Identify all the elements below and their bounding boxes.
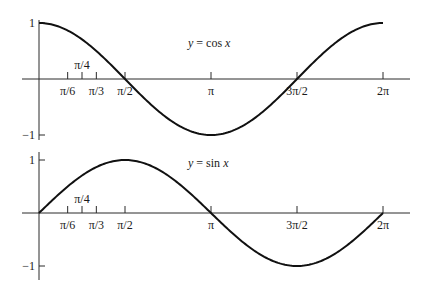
x-tick-label: π/3 xyxy=(89,218,104,232)
x-tick-label: π/4 xyxy=(74,192,89,206)
sin-panel: 1−1π/6π/4π/3π/2π3π/22πy = sin x xyxy=(22,152,410,280)
equation-label: y = sin x xyxy=(187,156,229,170)
x-tick-label: π/4 xyxy=(74,58,89,72)
x-tick-label: π xyxy=(208,218,214,232)
x-tick-label: 3π/2 xyxy=(286,218,307,232)
equation-fn: cos xyxy=(206,36,225,50)
equation-x: x xyxy=(224,36,231,50)
equation-eq: = xyxy=(193,36,206,50)
equation-label: y = cos x xyxy=(187,36,231,50)
y-tick-label: −1 xyxy=(22,259,35,273)
equation-eq: = xyxy=(193,156,206,170)
x-tick-label: π/3 xyxy=(89,84,104,98)
x-tick-label: π/2 xyxy=(117,218,132,232)
x-tick-label: 2π xyxy=(377,218,389,232)
x-tick-label: π/6 xyxy=(60,84,75,98)
y-tick-label: 1 xyxy=(29,16,35,30)
equation-x: x xyxy=(222,156,229,170)
y-tick-label: 1 xyxy=(29,153,35,167)
x-tick-label: π/2 xyxy=(117,84,132,98)
x-tick-label: 2π xyxy=(377,84,389,98)
trig-graphs: 1−1π/6π/4π/3π/2π3π/22πy = cos x 1−1π/6π/… xyxy=(0,0,430,291)
cos-panel: 1−1π/6π/4π/3π/2π3π/22πy = cos x xyxy=(22,16,410,142)
x-tick-label: π/6 xyxy=(60,218,75,232)
equation-fn: sin xyxy=(206,156,223,170)
y-tick-label: −1 xyxy=(22,128,35,142)
x-tick-label: π xyxy=(208,84,214,98)
